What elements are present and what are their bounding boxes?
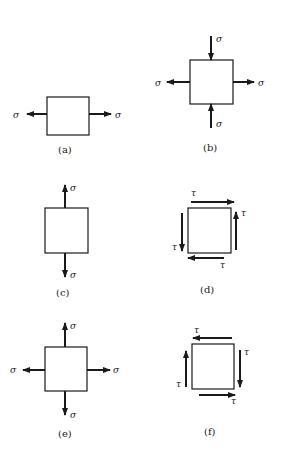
panel-a: σ σ (a) [13,97,122,155]
caption: (e) [58,428,72,439]
label-right: τ [241,208,247,218]
label-top: σ [216,34,223,44]
label-bottom: τ [220,260,226,270]
label-left: σ [13,110,20,120]
element-square [188,208,231,253]
caption: (a) [58,144,72,155]
label-bottom: σ [70,410,77,420]
element-square [45,347,87,391]
caption: (c) [56,287,70,298]
label-left: σ [155,78,162,88]
label-right: τ [244,347,250,357]
label-bottom: σ [70,270,77,280]
panel-f: τ τ τ τ (f) [176,325,250,437]
label-top: σ [70,321,77,331]
label-top: τ [191,188,197,198]
element-square [47,97,89,135]
element-square [190,60,233,104]
label-left: τ [172,242,178,252]
caption: (d) [200,284,214,295]
label-right: σ [113,365,120,375]
element-square [192,344,234,389]
label-top: τ [194,325,200,335]
caption: (b) [203,142,217,153]
label-top: σ [70,183,77,193]
label-right: σ [258,78,265,88]
panel-c: σ σ (c) [45,183,88,298]
panel-b: σ σ σ σ (b) [155,34,265,153]
label-left: σ [10,365,17,375]
label-bottom: τ [231,396,237,406]
panel-d: τ τ τ τ (d) [172,188,247,295]
label-bottom: σ [216,119,223,129]
label-right: σ [115,110,122,120]
stress-states-figure: σ σ (a) σ σ σ σ (b) σ σ (c) τ τ τ τ (d) [0,0,282,451]
caption: (f) [204,426,216,437]
element-square [45,208,88,253]
panel-e: σ σ σ σ (e) [10,321,120,439]
label-left: τ [176,379,182,389]
